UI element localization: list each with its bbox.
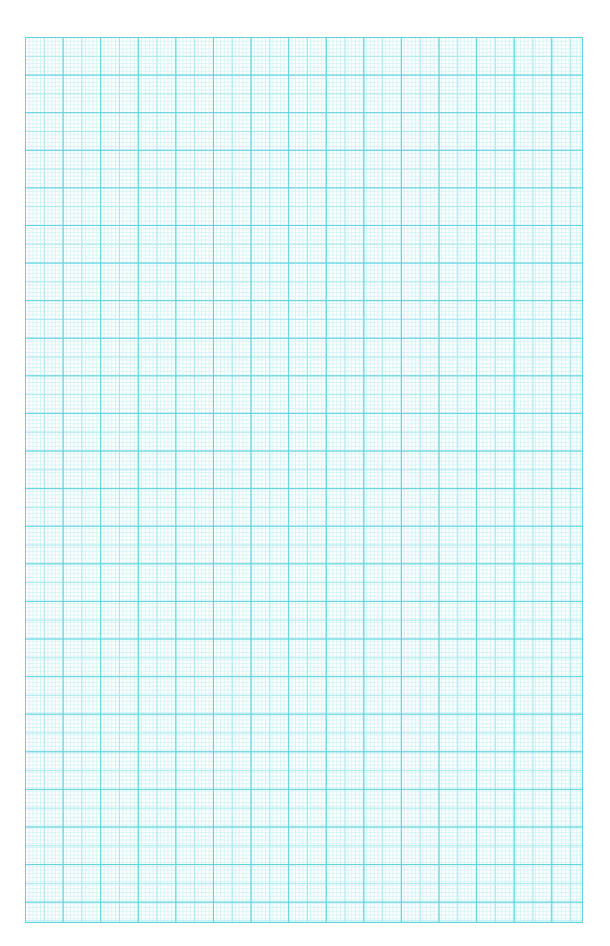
graph-paper-grid (25, 37, 583, 923)
